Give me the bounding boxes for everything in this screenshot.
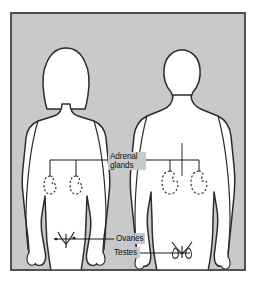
endocrine-diagram-figure: Adrenal glands Ovaries Testes [0, 0, 256, 281]
testes-label: Testes [114, 248, 137, 257]
adrenal-label-line2: glands [110, 161, 134, 170]
diagram-canvas: Adrenal glands Ovaries Testes [0, 0, 256, 281]
adrenal-label-line1: Adrenal [110, 152, 138, 161]
ovaries-label: Ovaries [116, 234, 144, 243]
female-hair [43, 48, 89, 109]
male-head [164, 50, 200, 97]
